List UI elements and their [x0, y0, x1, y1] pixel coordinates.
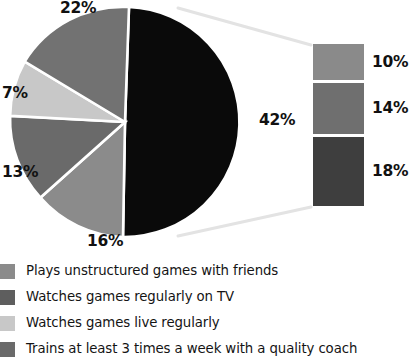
legend-item-trains-three-times[interactable]: Trains at least 3 times a week with a qu… — [0, 336, 415, 362]
breakdown-segment-14[interactable] — [313, 83, 364, 134]
pie-label-42: 42% — [259, 113, 295, 129]
breakdown-segment-10[interactable] — [313, 44, 364, 80]
legend-item-label: Plays unstructured games with friends — [26, 264, 278, 277]
legend-item-label: Trains at least 3 times a week with a qu… — [26, 342, 357, 355]
chart-legend: Plays unstructured games with friends Wa… — [0, 258, 415, 362]
breakdown-label-14: 14% — [372, 101, 408, 117]
legend-swatch-icon — [0, 342, 15, 357]
legend-item-watches-games-live[interactable]: Watches games live regularly — [0, 310, 415, 336]
breakdown-bar — [313, 44, 364, 206]
pie-chart-area: 22% 7% 13% 16% 42% 10% 14% 18% — [0, 0, 415, 252]
legend-swatch-icon — [0, 264, 15, 279]
legend-item-label: Watches games regularly on TV — [26, 290, 234, 303]
breakdown-segment-18[interactable] — [313, 137, 364, 206]
pie-label-7: 7% — [2, 86, 28, 102]
pie-and-breakdown-graphic — [0, 0, 415, 252]
legend-item-watches-games-tv[interactable]: Watches games regularly on TV — [0, 284, 415, 310]
legend-item-label: Watches games live regularly — [26, 316, 220, 329]
legend-item-plays-unstructured-games[interactable]: Plays unstructured games with friends — [0, 258, 415, 284]
pie-label-13: 13% — [2, 165, 38, 181]
pie-slices — [10, 7, 239, 237]
legend-swatch-icon — [0, 316, 15, 331]
legend-swatch-icon — [0, 290, 15, 305]
chart-root: 22% 7% 13% 16% 42% 10% 14% 18% Plays uns… — [0, 0, 415, 362]
pie-label-22: 22% — [60, 1, 96, 17]
breakdown-label-18: 18% — [372, 164, 408, 180]
breakdown-label-10: 10% — [372, 55, 408, 71]
pie-label-16: 16% — [87, 234, 123, 250]
pie-slice-42[interactable] — [123, 7, 239, 237]
